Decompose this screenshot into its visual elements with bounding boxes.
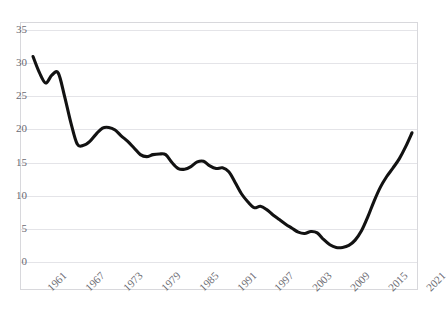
- y-axis-tick-25: 25: [1, 90, 27, 101]
- y-axis-tick-10: 10: [1, 190, 27, 201]
- y-axis-tick-15: 15: [1, 157, 27, 168]
- y-axis-tick-0: 0: [1, 256, 27, 267]
- series-line-1: [33, 57, 412, 248]
- data-series: [33, 57, 412, 248]
- y-axis-tick-35: 35: [1, 24, 27, 35]
- y-axis-tick-30: 30: [1, 57, 27, 68]
- y-axis-tick-20: 20: [1, 123, 27, 134]
- y-axis-tick-5: 5: [1, 223, 27, 234]
